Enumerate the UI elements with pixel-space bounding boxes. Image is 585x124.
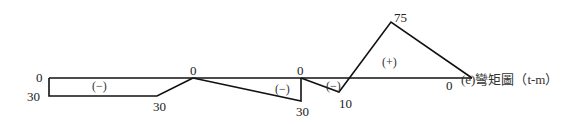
sign-seg2: (−) (275, 83, 290, 95)
label-peak: 75 (394, 11, 407, 24)
label-zero-mid2: 0 (297, 64, 304, 77)
label-seg3-end: 10 (339, 97, 352, 110)
label-right-zero: 0 (446, 79, 453, 92)
bending-moment-diagram (0, 0, 585, 124)
label-seg2-end: 30 (296, 105, 309, 118)
diagram-caption: (e)彎矩圖（t-m） (461, 73, 558, 86)
label-left-top: 0 (36, 71, 43, 84)
label-zero-mid1: 0 (190, 64, 197, 77)
moment-segment-1 (49, 78, 193, 96)
label-seg1-end: 30 (153, 100, 166, 113)
sign-seg1: (−) (92, 80, 107, 92)
label-left-bottom: 30 (27, 90, 40, 103)
sign-seg4: (+) (382, 56, 397, 68)
sign-seg3: (−) (326, 80, 341, 92)
